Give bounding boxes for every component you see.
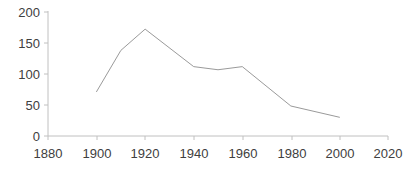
y-tick-label-0: 0 bbox=[0, 130, 40, 143]
y-tick-label-50: 50 bbox=[0, 99, 40, 112]
x-tick-label-2020: 2020 bbox=[358, 147, 416, 160]
x-axis-ticks bbox=[48, 136, 388, 140]
line-chart: 0 50 100 150 200 1880 1900 1920 1940 196… bbox=[0, 0, 416, 172]
y-axis-ticks bbox=[44, 12, 48, 136]
y-tick-label-200: 200 bbox=[0, 6, 40, 19]
data-series-line bbox=[97, 29, 340, 117]
y-tick-label-150: 150 bbox=[0, 37, 40, 50]
y-tick-label-100: 100 bbox=[0, 68, 40, 81]
